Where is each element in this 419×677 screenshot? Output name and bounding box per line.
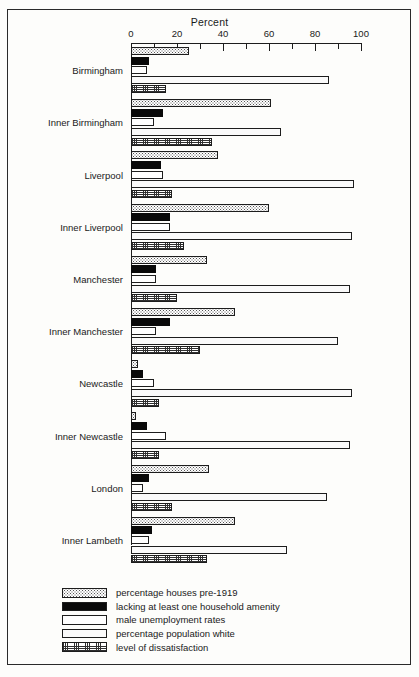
legend-swatch-dots-sparse-icon: [62, 588, 107, 598]
bar: [131, 503, 172, 511]
bar: [131, 128, 281, 136]
category-label-birmingham: Birmingham: [72, 65, 123, 76]
bar: [131, 360, 138, 368]
bar: [131, 412, 136, 420]
legend-swatch-black-icon: [62, 602, 107, 612]
bar: [131, 275, 156, 283]
legend-swatch-dots-dense-icon: [62, 629, 107, 639]
x-tick-label-40: 40: [218, 28, 229, 39]
bar: [131, 99, 271, 107]
bar: [131, 294, 177, 302]
x-tick-label-100: 100: [353, 28, 369, 39]
x-tick-label-60: 60: [264, 28, 275, 39]
bar: [131, 213, 170, 221]
bar: [131, 536, 149, 544]
legend-swatch-grid-icon: [62, 642, 107, 652]
bar: [131, 180, 354, 188]
bar: [131, 242, 184, 250]
x-tick-label-20: 20: [172, 28, 183, 39]
legend-label: male unemployment rates: [116, 614, 225, 625]
chart-legend: percentage houses pre-1919lacking at lea…: [62, 586, 362, 654]
bar: [131, 47, 189, 55]
bar: [131, 118, 154, 126]
category-label-manchester: Manchester: [73, 274, 123, 285]
legend-item[interactable]: lacking at least one household amenity: [62, 600, 362, 614]
bar: [131, 161, 161, 169]
bar: [131, 223, 170, 231]
bar: [131, 422, 147, 430]
bar: [131, 441, 350, 449]
x-tick-100: [361, 44, 362, 51]
bar: [131, 389, 352, 397]
bar: [131, 465, 209, 473]
bar: [131, 546, 287, 554]
bar: [131, 308, 235, 316]
bar: [131, 265, 156, 273]
bar: [131, 85, 166, 93]
category-label-inner-lambeth: Inner Lambeth: [62, 535, 123, 546]
category-label-inner-manchester: Inner Manchester: [49, 326, 123, 337]
category-label-inner-birmingham: Inner Birmingham: [48, 117, 123, 128]
bar: [131, 151, 218, 159]
category-label-inner-liverpool: Inner Liverpool: [60, 222, 123, 233]
bar: [131, 171, 163, 179]
bar: [131, 399, 159, 407]
bar: [131, 190, 172, 198]
bar: [131, 109, 163, 117]
bar: [131, 555, 207, 563]
bar: [131, 76, 329, 84]
axis-title: Percent: [0, 16, 419, 28]
legend-item[interactable]: level of dissatisfaction: [62, 640, 362, 654]
legend-label: level of dissatisfaction: [116, 642, 208, 653]
category-label-inner-newcastle: Inner Newcastle: [55, 431, 123, 442]
bar: [131, 474, 149, 482]
x-tick-label-80: 80: [310, 28, 321, 39]
bar: [131, 517, 235, 525]
x-tick-label-0: 0: [128, 28, 133, 39]
bar: [131, 370, 143, 378]
chart-page: Percent 020406080100 BirminghamInner Bir…: [0, 0, 419, 677]
legend-label: percentage houses pre-1919: [116, 587, 237, 598]
bar: [131, 285, 350, 293]
legend-item[interactable]: percentage population white: [62, 627, 362, 641]
bar: [131, 327, 156, 335]
bar: [131, 66, 147, 74]
bar: [131, 526, 152, 534]
category-label-london: London: [91, 483, 123, 494]
bar: [131, 318, 170, 326]
bar: [131, 138, 212, 146]
bar: [131, 204, 269, 212]
legend-item[interactable]: male unemployment rates: [62, 613, 362, 627]
bar: [131, 432, 166, 440]
category-label-liverpool: Liverpool: [84, 170, 123, 181]
category-label-newcastle: Newcastle: [79, 378, 123, 389]
bar: [131, 232, 352, 240]
bar: [131, 346, 200, 354]
bar: [131, 451, 159, 459]
legend-item[interactable]: percentage houses pre-1919: [62, 586, 362, 600]
bar: [131, 57, 149, 65]
legend-swatch-white-icon: [62, 615, 107, 625]
bar: [131, 256, 207, 264]
bar: [131, 337, 338, 345]
legend-label: percentage population white: [116, 628, 235, 639]
legend-label: lacking at least one household amenity: [116, 601, 280, 612]
bar: [131, 379, 154, 387]
bar: [131, 484, 143, 492]
bar: [131, 493, 327, 501]
